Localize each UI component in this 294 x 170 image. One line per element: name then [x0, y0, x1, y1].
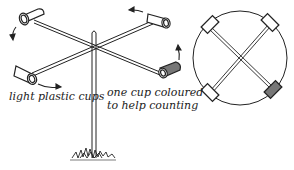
- cup-bottom-left: [14, 66, 38, 86]
- rotation-arrow-icon: [129, 7, 143, 12]
- rotation-arrow-icon: [10, 27, 16, 40]
- grass-base: [70, 148, 116, 160]
- anemometer-side-view: [0, 0, 294, 170]
- coloured-cup-label-line1: one cup coloured: [107, 86, 203, 99]
- cups-label: light plastic cups: [9, 90, 104, 103]
- cross-arm-1: [34, 20, 160, 75]
- coloured-cup: [157, 62, 180, 79]
- rotation-arrow-icon: [176, 45, 181, 60]
- cup-top-left: [18, 9, 44, 26]
- cup-top-right: [147, 14, 171, 29]
- coloured-cup-label-line2: to help counting: [107, 99, 198, 112]
- rotation-arrow-icon: [38, 84, 61, 89]
